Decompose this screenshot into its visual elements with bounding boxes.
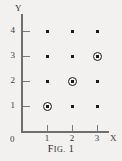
y-tick-label: 2 bbox=[3, 76, 15, 85]
y-tick-mark bbox=[23, 31, 30, 32]
data-point bbox=[71, 55, 74, 58]
data-point-circled bbox=[46, 105, 49, 108]
caption-smallcaps: IG. bbox=[54, 145, 66, 154]
x-tick-mark bbox=[47, 125, 48, 132]
y-tick-mark bbox=[23, 106, 30, 107]
y-tick-label: 4 bbox=[3, 26, 15, 35]
y-axis-label: Y bbox=[15, 4, 22, 13]
x-tick-label: 1 bbox=[41, 134, 53, 143]
data-point-circled bbox=[96, 55, 99, 58]
y-tick-label: 1 bbox=[3, 101, 15, 110]
caption-number: 1 bbox=[69, 143, 75, 154]
x-tick-mark bbox=[97, 125, 98, 132]
figure-panel: Y X 0 1234 123 FIG. 1 bbox=[0, 0, 122, 161]
x-tick-label: 3 bbox=[91, 134, 103, 143]
x-tick-mark bbox=[72, 125, 73, 132]
data-point bbox=[96, 30, 99, 33]
x-axis-label: X bbox=[110, 134, 117, 143]
data-point bbox=[46, 30, 49, 33]
data-point bbox=[46, 80, 49, 83]
x-tick-label: 2 bbox=[66, 134, 78, 143]
y-tick-mark bbox=[23, 56, 30, 57]
data-point bbox=[71, 30, 74, 33]
y-tick-label: 3 bbox=[3, 51, 15, 60]
data-point bbox=[71, 105, 74, 108]
figure-caption: FIG. 1 bbox=[0, 143, 122, 154]
y-axis-line bbox=[21, 14, 23, 133]
data-point bbox=[46, 55, 49, 58]
data-point bbox=[96, 105, 99, 108]
y-tick-mark bbox=[23, 81, 30, 82]
data-point-circled bbox=[71, 80, 74, 83]
data-point bbox=[96, 80, 99, 83]
